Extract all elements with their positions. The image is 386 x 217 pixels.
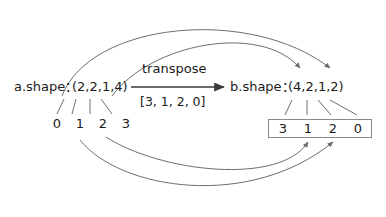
fan-line-source-1 xyxy=(72,99,76,114)
source-axis-index-1: 1 xyxy=(73,117,87,130)
perm-cell-2: 2 xyxy=(324,122,342,135)
source-shape-value: (2,2,1,4) xyxy=(72,80,128,93)
fan-line-source-0 xyxy=(57,99,64,114)
fan-line-target-3 xyxy=(330,100,357,115)
transpose-diagram: a.shape： (2,2,1,4) transpose [3, 1, 2, 0… xyxy=(0,0,386,217)
operation-name: transpose xyxy=(142,62,206,75)
source-axis-index-2: 2 xyxy=(96,117,110,130)
perm-cell-0: 3 xyxy=(274,122,292,135)
source-axis-index-3: 3 xyxy=(119,117,133,130)
perm-cell-3: 0 xyxy=(349,122,367,135)
source-shape-name: a.shape： xyxy=(14,80,78,93)
fan-line-source-3 xyxy=(101,99,112,114)
target-shape-name: b.shape： xyxy=(230,80,295,93)
fan-line-target-0 xyxy=(285,100,292,115)
arc-axis2-to-slot1 xyxy=(106,137,308,170)
fan-line-target-2 xyxy=(318,100,331,115)
target-shape-value: (4,2,1,2) xyxy=(288,80,344,93)
arc-axis1-to-slot2 xyxy=(80,140,333,186)
source-axis-index-0: 0 xyxy=(50,117,64,130)
permutation-argument: [3, 1, 2, 0] xyxy=(140,96,205,109)
perm-cell-1: 1 xyxy=(299,122,317,135)
